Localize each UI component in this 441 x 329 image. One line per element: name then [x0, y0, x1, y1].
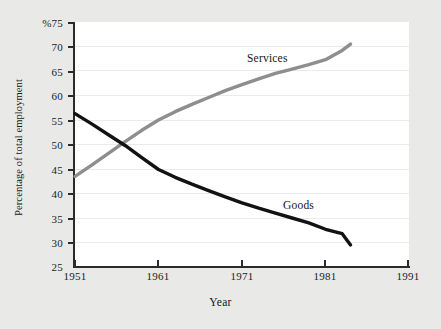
y-tick-65 — [68, 71, 75, 73]
y-tick-30 — [68, 242, 75, 244]
y-tick-label-55: 55 — [23, 116, 63, 127]
gridline-70 — [75, 46, 409, 47]
y-tick-label-50: 50 — [23, 140, 63, 151]
y-tick-label-70: 70 — [23, 42, 63, 53]
x-tick-1951 — [74, 260, 76, 267]
y-tick-label-75: %75 — [23, 18, 63, 29]
gridline-50 — [75, 144, 409, 145]
series-label-goods: Goods — [283, 199, 314, 211]
y-tick-label-65: 65 — [23, 67, 63, 78]
x-axis-title: Year — [0, 296, 441, 308]
x-tick-1961 — [157, 260, 159, 267]
y-tick-35 — [68, 218, 75, 220]
x-tick-label-1971: 1971 — [212, 271, 272, 282]
gridline-45 — [75, 169, 409, 170]
chart-figure: %75 70 65 60 55 50 45 40 35 30 25 1951 1… — [0, 0, 441, 329]
x-tick-label-1991: 1991 — [378, 271, 438, 282]
y-tick-label-45: 45 — [23, 165, 63, 176]
y-tick-label-35: 35 — [23, 214, 63, 225]
gridline-40 — [75, 193, 409, 194]
y-tick-45 — [68, 169, 75, 171]
y-tick-55 — [68, 120, 75, 122]
x-tick-1981 — [324, 260, 326, 267]
y-tick-40 — [68, 193, 75, 195]
plot-area — [75, 22, 409, 267]
y-axis-title: Percentage of total employment — [13, 68, 24, 228]
y-tick-label-60: 60 — [23, 91, 63, 102]
gridline-55 — [75, 120, 409, 121]
x-tick-1991 — [407, 260, 409, 267]
x-tick-1971 — [241, 260, 243, 267]
gridline-65 — [75, 70, 409, 71]
x-tick-label-1981: 1981 — [295, 271, 355, 282]
y-tick-label-30: 30 — [23, 238, 63, 249]
series-label-services: Services — [247, 52, 288, 64]
gridline-60 — [75, 95, 409, 96]
gridline-35 — [75, 218, 409, 219]
gridline-30 — [75, 242, 409, 243]
y-tick-60 — [68, 95, 75, 97]
y-tick-label-40: 40 — [23, 189, 63, 200]
y-tick-75 — [68, 22, 75, 24]
y-tick-70 — [68, 46, 75, 48]
x-tick-label-1961: 1961 — [128, 271, 188, 282]
x-tick-label-1951: 1951 — [45, 271, 105, 282]
y-tick-50 — [68, 144, 75, 146]
